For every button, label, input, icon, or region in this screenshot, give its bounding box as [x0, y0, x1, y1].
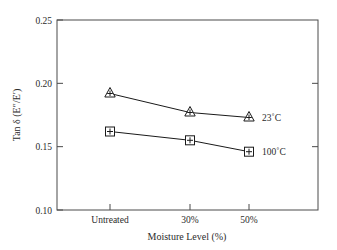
y-tick-label-2: 0.20 — [35, 79, 52, 89]
data-point-100c-50 — [245, 147, 254, 156]
y-tick-label-0: 0.10 — [35, 206, 52, 216]
x-tick-label-0: Untreated — [91, 215, 129, 225]
y-tick-label-3: 0.25 — [35, 16, 52, 26]
line-chart: 0.10 0.15 0.20 0.25 Untreated 30% 50% Mo… — [0, 0, 337, 250]
series-label-100c: 100˚C — [262, 147, 286, 157]
series-line-23c — [110, 94, 249, 118]
data-point-23c-untreated — [105, 88, 115, 98]
x-tick-label-2: 50% — [240, 215, 258, 225]
y-axis-title: Tan δ (E″/E′) — [11, 89, 23, 142]
data-point-23c-50 — [244, 112, 254, 122]
series-label-23c: 23˚C — [262, 113, 281, 123]
data-point-100c-30 — [186, 136, 195, 145]
x-tick-label-1: 30% — [181, 215, 199, 225]
data-point-100c-untreated — [106, 127, 115, 136]
chart-figure: 0.10 0.15 0.20 0.25 Untreated 30% 50% Mo… — [0, 0, 337, 250]
y-tick-label-1: 0.15 — [35, 142, 52, 152]
x-axis-title: Moisture Level (%) — [148, 231, 227, 243]
series-line-100c — [110, 132, 249, 152]
